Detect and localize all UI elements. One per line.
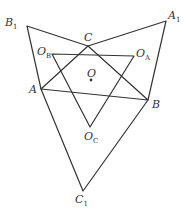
label-b: B	[152, 99, 160, 110]
label-oa: OA	[136, 48, 150, 62]
label-o: O	[87, 68, 96, 79]
label-b1: B1	[5, 17, 18, 31]
geometry-diagram: B1 A1 C OB OA O A B OC C1	[0, 0, 189, 218]
diagram-canvas	[0, 0, 189, 218]
label-c1: C1	[75, 194, 88, 208]
triangle-oa-ob-oc	[52, 54, 134, 127]
label-a: A	[29, 84, 37, 95]
label-ob: OB	[37, 46, 51, 60]
label-oc: OC	[84, 131, 98, 145]
label-c: C	[84, 32, 92, 43]
label-a1: A1	[168, 10, 180, 24]
